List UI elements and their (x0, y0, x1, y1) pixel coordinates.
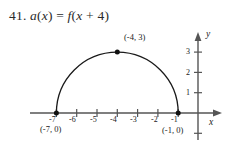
y-axis-arrowhead (195, 32, 202, 41)
right-endpoint-label: (-1, 0) (162, 126, 183, 135)
y-tick-label-1: 1 (186, 89, 190, 97)
x-tick-label--6: -6 (69, 116, 76, 124)
x-tick-label--1: -1 (171, 116, 178, 124)
point-peak (115, 50, 120, 55)
y-tick-label-3: 3 (186, 48, 190, 56)
x-axis-label: x (209, 118, 213, 128)
left-endpoint-label: (-7, 0) (40, 125, 61, 134)
peak-point-label: (-4, 3) (124, 33, 145, 42)
x-tick-label--2: -2 (151, 116, 158, 124)
x-tick-label--3: -3 (130, 116, 137, 124)
x-tick-label--5: -5 (90, 116, 97, 124)
y-tick-label-2: 2 (186, 69, 190, 77)
y-axis-label: y (206, 30, 210, 40)
semicircle-curve (56, 52, 178, 113)
x-tick-label--4: -4 (110, 116, 117, 124)
x-tick-label--7: -7 (49, 116, 56, 124)
figure-page: 41. a(x) = f(x + 4) (0, 0, 231, 145)
x-axis-arrowhead (213, 110, 222, 117)
